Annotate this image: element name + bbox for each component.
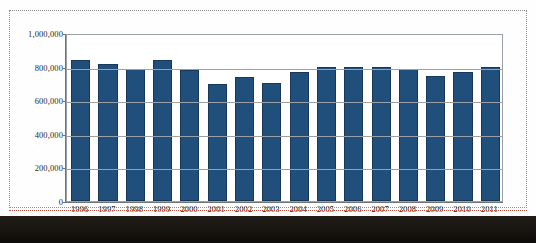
x-axis-line [65, 202, 503, 203]
bar [153, 60, 172, 201]
scanner-dark-band [0, 216, 536, 243]
x-axis-tick-label: 2002 [230, 204, 257, 214]
bar [317, 67, 336, 201]
grid-line [67, 102, 502, 103]
y-axis-tick-label: 400,000 [35, 130, 63, 140]
screenshot-root: 0200,000400,000600,000800,0001,000,000 1… [0, 0, 536, 243]
bar [71, 60, 90, 201]
y-axis-tick-label: 600,000 [35, 96, 63, 106]
bar [372, 67, 391, 201]
x-axis-tick-label: 2005 [312, 204, 339, 214]
x-axis-tick-label: 2000 [175, 204, 202, 214]
x-axis-tick-label: 2009 [421, 204, 448, 214]
x-axis-tick-label: 2003 [257, 204, 284, 214]
x-axis-tick-label: 1999 [148, 204, 175, 214]
x-axis-tick-label: 2008 [394, 204, 421, 214]
bar-chart: 0200,000400,000600,000800,0001,000,000 1… [9, 10, 527, 208]
y-axis-tick-label: 800,000 [35, 63, 63, 73]
plot-area [66, 34, 503, 202]
grid-line [67, 136, 502, 137]
bar [235, 77, 254, 201]
x-axis-tick-label: 2004 [285, 204, 312, 214]
page-bottom-dotted-rule [9, 210, 527, 212]
x-axis-tick-label: 1998 [121, 204, 148, 214]
x-axis-tick-label: 2006 [339, 204, 366, 214]
x-axis-tick-label: 2001 [203, 204, 230, 214]
grid-line [67, 169, 502, 170]
bar [344, 67, 363, 201]
bar [262, 83, 281, 201]
bar [98, 64, 117, 201]
x-axis-tick-label: 2010 [448, 204, 475, 214]
bar [481, 67, 500, 201]
y-axis-tick-labels: 0200,000400,000600,000800,0001,000,000 [9, 10, 63, 208]
bar [426, 76, 445, 201]
bar-series [67, 35, 502, 201]
y-axis-tick-label: 200,000 [35, 163, 63, 173]
x-axis-tick-label: 1996 [66, 204, 93, 214]
x-axis-tick-label: 2007 [366, 204, 393, 214]
grid-line [67, 69, 502, 70]
y-axis-tick-label: 1,000,000 [28, 29, 63, 39]
x-axis-tick-label: 2011 [476, 204, 503, 214]
x-axis-tick-label: 1997 [93, 204, 120, 214]
